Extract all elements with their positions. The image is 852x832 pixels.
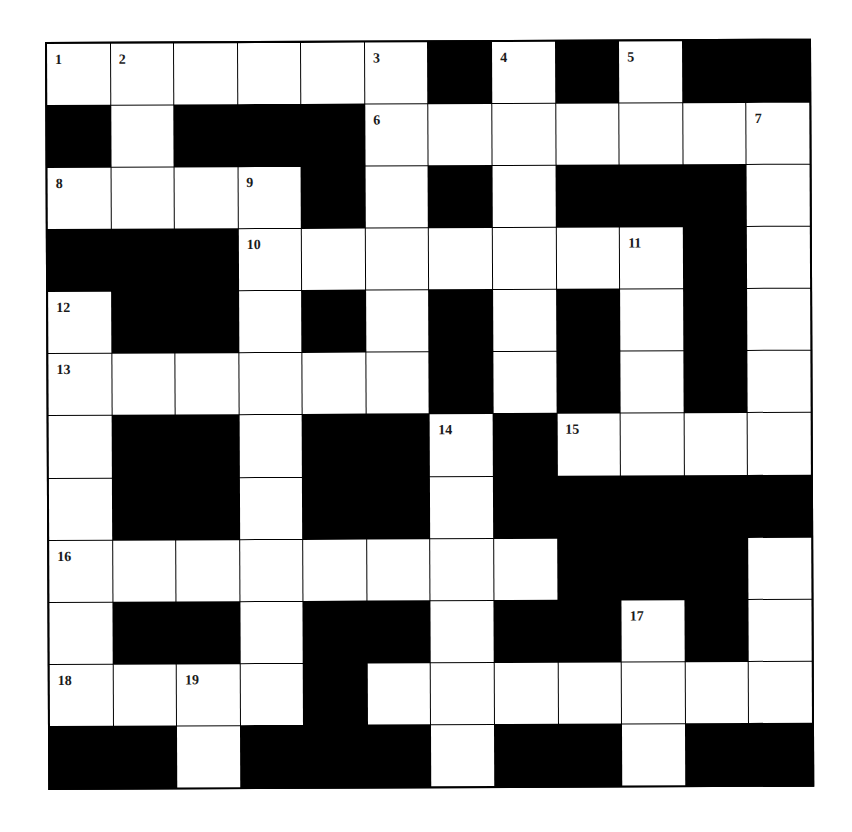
block-cell — [114, 726, 177, 787]
answer-cell[interactable]: 16 — [49, 540, 112, 601]
block-cell — [175, 291, 238, 352]
answer-cell[interactable] — [239, 415, 302, 476]
answer-cell[interactable] — [684, 413, 747, 474]
answer-cell[interactable] — [239, 353, 302, 414]
answer-cell[interactable] — [622, 662, 685, 723]
answer-cell[interactable] — [430, 477, 493, 538]
block-cell — [302, 167, 365, 228]
answer-cell[interactable]: 12 — [48, 292, 111, 353]
clue-number: 8 — [56, 177, 63, 191]
answer-cell[interactable]: 2 — [111, 43, 174, 104]
answer-cell[interactable]: 9 — [238, 167, 301, 228]
block-cell — [684, 289, 747, 350]
clue-number: 3 — [373, 52, 380, 66]
answer-cell[interactable]: 13 — [48, 354, 111, 415]
answer-cell[interactable] — [556, 228, 619, 289]
answer-cell[interactable] — [431, 725, 494, 786]
answer-cell[interactable] — [748, 413, 811, 474]
answer-cell[interactable] — [112, 354, 175, 415]
answer-cell[interactable] — [303, 353, 366, 414]
answer-cell[interactable] — [747, 227, 810, 288]
answer-cell[interactable] — [302, 229, 365, 290]
answer-cell[interactable] — [620, 103, 683, 164]
answer-cell[interactable] — [493, 228, 556, 289]
block-cell — [621, 476, 684, 537]
answer-cell[interactable] — [686, 662, 749, 723]
block-cell — [683, 41, 746, 102]
answer-cell[interactable] — [111, 106, 174, 167]
answer-cell[interactable]: 18 — [50, 665, 113, 726]
answer-cell[interactable] — [494, 538, 557, 599]
answer-cell[interactable] — [493, 290, 556, 351]
answer-cell[interactable] — [748, 351, 811, 412]
answer-cell[interactable]: 1 — [47, 44, 110, 105]
answer-cell[interactable]: 7 — [747, 103, 810, 164]
answer-cell[interactable]: 15 — [557, 414, 620, 475]
answer-cell[interactable]: 4 — [492, 42, 555, 103]
answer-cell[interactable] — [301, 43, 364, 104]
answer-cell[interactable] — [113, 664, 176, 725]
clue-number: 18 — [58, 674, 72, 688]
answer-cell[interactable] — [558, 662, 621, 723]
answer-cell[interactable]: 8 — [48, 168, 111, 229]
answer-cell[interactable] — [239, 291, 302, 352]
answer-cell[interactable] — [240, 477, 303, 538]
answer-cell[interactable] — [113, 540, 176, 601]
answer-cell[interactable] — [749, 599, 812, 660]
answer-cell[interactable] — [431, 539, 494, 600]
answer-cell[interactable] — [238, 43, 301, 104]
answer-cell[interactable] — [747, 289, 810, 350]
clue-number: 17 — [630, 609, 644, 623]
answer-cell[interactable] — [367, 539, 430, 600]
answer-cell[interactable] — [49, 478, 112, 539]
answer-cell[interactable] — [176, 354, 239, 415]
answer-cell[interactable] — [174, 43, 237, 104]
answer-cell[interactable] — [366, 353, 429, 414]
answer-cell[interactable] — [304, 539, 367, 600]
block-cell — [112, 292, 175, 353]
answer-cell[interactable] — [621, 352, 684, 413]
answer-cell[interactable] — [749, 537, 812, 598]
answer-cell[interactable] — [492, 104, 555, 165]
answer-cell[interactable] — [49, 602, 112, 663]
answer-cell[interactable] — [556, 104, 619, 165]
answer-cell[interactable] — [493, 352, 556, 413]
answer-cell[interactable] — [368, 663, 431, 724]
block-cell — [684, 227, 747, 288]
answer-cell[interactable] — [495, 663, 558, 724]
answer-cell[interactable] — [240, 602, 303, 663]
answer-cell[interactable]: 17 — [622, 600, 685, 661]
answer-cell[interactable] — [176, 540, 239, 601]
answer-cell[interactable] — [493, 166, 556, 227]
answer-cell[interactable] — [366, 229, 429, 290]
answer-cell[interactable]: 5 — [619, 41, 682, 102]
answer-cell[interactable] — [620, 290, 683, 351]
answer-cell[interactable] — [111, 168, 174, 229]
answer-cell[interactable] — [49, 416, 112, 477]
answer-cell[interactable] — [175, 167, 238, 228]
answer-cell[interactable]: 3 — [365, 42, 428, 103]
answer-cell[interactable] — [749, 661, 812, 722]
answer-cell[interactable]: 19 — [177, 664, 240, 725]
answer-cell[interactable] — [429, 228, 492, 289]
answer-cell[interactable] — [431, 663, 494, 724]
answer-cell[interactable]: 11 — [620, 227, 683, 288]
answer-cell[interactable] — [365, 166, 428, 227]
answer-cell[interactable] — [622, 724, 685, 785]
answer-cell[interactable] — [240, 664, 303, 725]
answer-cell[interactable]: 10 — [239, 229, 302, 290]
block-cell — [686, 724, 749, 785]
block-cell — [47, 106, 110, 167]
answer-cell[interactable]: 6 — [365, 104, 428, 165]
answer-cell[interactable] — [431, 601, 494, 662]
answer-cell[interactable]: 14 — [430, 415, 493, 476]
answer-cell[interactable] — [366, 291, 429, 352]
block-cell — [557, 290, 620, 351]
answer-cell[interactable] — [621, 414, 684, 475]
block-cell — [556, 166, 619, 227]
answer-cell[interactable] — [747, 165, 810, 226]
answer-cell[interactable] — [429, 104, 492, 165]
answer-cell[interactable] — [240, 540, 303, 601]
answer-cell[interactable] — [683, 103, 746, 164]
answer-cell[interactable] — [177, 726, 240, 787]
